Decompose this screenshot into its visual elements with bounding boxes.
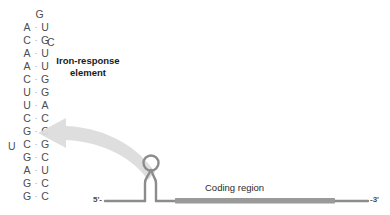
bond-dot: · bbox=[33, 47, 40, 60]
table-row: C · G bbox=[0, 34, 72, 47]
base-right: U bbox=[40, 164, 51, 177]
base-left: C bbox=[22, 112, 33, 125]
table-row: A · U bbox=[0, 164, 72, 177]
bond-dot: · bbox=[33, 164, 40, 177]
loop-apex-base: G bbox=[34, 8, 45, 21]
table-row: G · C bbox=[0, 190, 72, 203]
base-right: C bbox=[40, 125, 51, 138]
bond-dot: · bbox=[33, 21, 40, 34]
table-row: A · U bbox=[0, 21, 72, 34]
bond-dot: · bbox=[33, 99, 40, 112]
ire-mrna-figure: G · G G A · U C · G A · U A · U C · G bbox=[0, 0, 390, 215]
coding-region-label: Coding region bbox=[205, 182, 264, 193]
rna-backbone bbox=[105, 156, 368, 202]
base-right: C bbox=[40, 151, 51, 164]
base-right: C bbox=[40, 190, 51, 203]
bond-dot: · bbox=[33, 34, 40, 47]
hairpin-stem-left bbox=[145, 170, 151, 201]
base-right: C bbox=[40, 112, 51, 125]
base-right: G bbox=[40, 86, 51, 99]
table-row: C · C bbox=[0, 112, 72, 125]
table-row: G · C bbox=[0, 125, 72, 138]
base-left: G bbox=[22, 177, 33, 190]
bulge-base-u: U bbox=[8, 140, 16, 153]
bond-dot: · bbox=[33, 138, 40, 151]
bulge-base-c: C bbox=[47, 36, 55, 49]
base-left: A bbox=[22, 60, 33, 73]
bond-dot: · bbox=[33, 177, 40, 190]
base-left: A bbox=[22, 47, 33, 60]
bond-dot: · bbox=[33, 112, 40, 125]
base-left: G bbox=[22, 151, 33, 164]
bond-dot: · bbox=[33, 73, 40, 86]
base-right: G bbox=[40, 138, 51, 151]
bond-dot: · bbox=[33, 86, 40, 99]
ire-label-line2: element bbox=[48, 67, 128, 79]
base-left: U bbox=[22, 99, 33, 112]
hairpin-loop bbox=[144, 156, 159, 171]
bond-dot: · bbox=[33, 60, 40, 73]
table-row: U · G bbox=[0, 86, 72, 99]
base-right-apex-spacer: G bbox=[45, 8, 56, 21]
three-prime-end-label: -3' bbox=[370, 195, 379, 204]
stem-row-apex: G · G G bbox=[0, 8, 72, 21]
bond-dot: · bbox=[33, 125, 40, 138]
bond-dot-apex: · bbox=[27, 8, 34, 21]
five-prime-end-label: 5'- bbox=[93, 195, 102, 204]
table-row: G · C bbox=[0, 177, 72, 190]
base-left: G bbox=[22, 190, 33, 203]
coding-region-bar bbox=[175, 198, 335, 203]
base-left: C bbox=[22, 138, 33, 151]
base-left: A bbox=[22, 164, 33, 177]
ire-label-line1: Iron-response bbox=[48, 55, 128, 67]
hairpin-stem-right bbox=[151, 170, 156, 201]
bond-dot: · bbox=[33, 151, 40, 164]
base-left: A bbox=[22, 21, 33, 34]
bond-dot: · bbox=[33, 190, 40, 203]
base-left: C bbox=[22, 34, 33, 47]
table-row: U · A bbox=[0, 99, 72, 112]
iron-response-element-label: Iron-response element bbox=[48, 55, 128, 79]
base-right: C bbox=[40, 177, 51, 190]
stem-loop-base-pair-ladder: G · G G A · U C · G A · U A · U C · G bbox=[0, 0, 130, 215]
base-left: U bbox=[22, 86, 33, 99]
base-left-apex: G bbox=[16, 8, 27, 21]
base-left: C bbox=[22, 73, 33, 86]
base-right: A bbox=[40, 99, 51, 112]
base-right: U bbox=[40, 21, 51, 34]
base-left: G bbox=[22, 125, 33, 138]
